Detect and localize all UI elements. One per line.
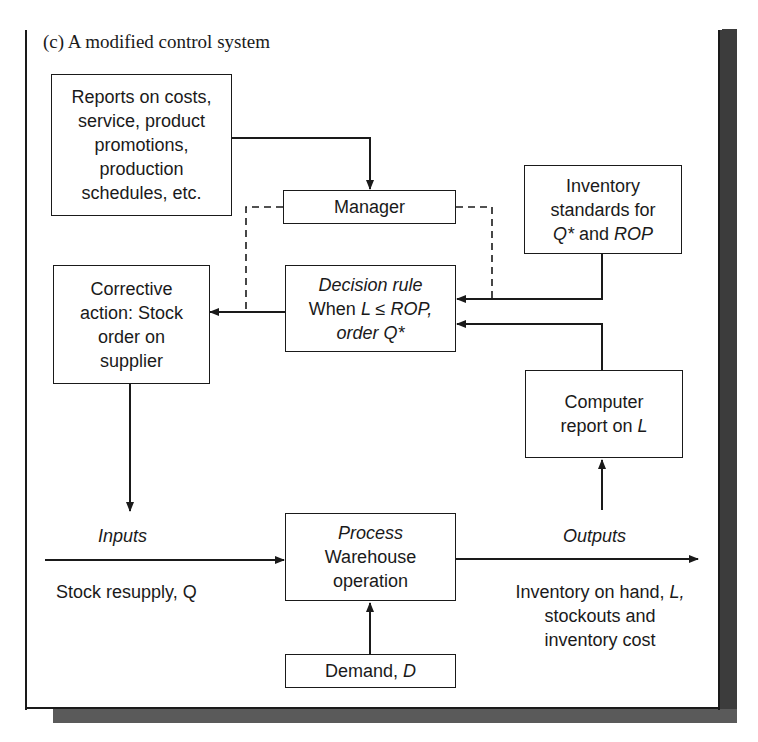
reports-box: Reports on costs, service, product promo… <box>51 74 232 216</box>
process-box: Process Warehouse operation <box>285 513 456 601</box>
manager-left-dashed-line <box>246 207 283 312</box>
computer-report-to-decision-arrow <box>457 324 602 370</box>
decision-rule-order: order Q* <box>336 321 404 345</box>
computer-report-box: Computer report on L <box>525 370 683 458</box>
outputs-l-var: L, <box>670 582 685 602</box>
outputs-label: Outputs <box>563 524 626 548</box>
demand-prefix: Demand, <box>325 661 403 681</box>
manager-label: Manager <box>334 195 405 219</box>
and-text: and <box>574 224 614 244</box>
decision-rule-title: Decision rule <box>318 273 422 297</box>
computer-report-line-2: report on L <box>560 414 647 438</box>
corrective-line-1: Corrective <box>90 277 172 301</box>
report-on-text: report on <box>560 416 637 436</box>
standards-to-decision-arrow <box>457 254 602 299</box>
demand-box: Demand, D <box>285 654 456 688</box>
corrective-action-box: Corrective action: Stock order on suppli… <box>53 265 210 384</box>
inputs-label: Inputs <box>98 524 147 548</box>
computer-report-line-1: Computer <box>564 390 643 414</box>
outputs-description: Inventory on hand, L, stockouts and inve… <box>485 580 715 652</box>
outputs-line-1: Inventory on hand, L, <box>485 580 715 604</box>
inventory-standards-box: Inventory standards for Q* and ROP <box>524 165 682 254</box>
l-var: L <box>638 416 648 436</box>
d-var: D <box>403 661 416 681</box>
process-line-1: Warehouse <box>325 545 416 569</box>
stock-resupply-label: Stock resupply, Q <box>56 580 197 604</box>
reports-line-2: service, product <box>78 109 205 133</box>
inventory-on-hand-text: Inventory on hand, <box>515 582 669 602</box>
condition-text: L ≤ ROP, <box>361 299 432 319</box>
reports-line-5: schedules, etc. <box>81 181 201 205</box>
manager-right-dashed-line <box>456 207 492 298</box>
decision-rule-box: Decision rule When L ≤ ROP, order Q* <box>285 265 456 352</box>
corrective-line-3: order on <box>98 325 165 349</box>
when-text: When <box>309 299 361 319</box>
process-title: Process <box>338 521 403 545</box>
reports-line-3: promotions, <box>94 133 188 157</box>
reports-line-1: Reports on costs, <box>71 85 211 109</box>
inventory-standards-line-1: Inventory <box>566 174 640 198</box>
q-star-var: Q* <box>553 224 574 244</box>
corrective-line-4: supplier <box>100 349 163 373</box>
demand-label: Demand, D <box>325 659 416 683</box>
process-line-2: operation <box>333 569 408 593</box>
rop-var: ROP <box>614 224 653 244</box>
decision-rule-condition-line: When L ≤ ROP, <box>309 297 432 321</box>
inventory-standards-line-2: standards for <box>550 198 655 222</box>
manager-box: Manager <box>283 190 456 224</box>
reports-line-4: production <box>99 157 183 181</box>
outputs-line-2: stockouts and <box>485 604 715 628</box>
corrective-line-2: action: Stock <box>80 301 183 325</box>
inventory-standards-line-3: Q* and ROP <box>553 222 653 246</box>
reports-to-manager-arrow <box>232 138 370 189</box>
outputs-line-3: inventory cost <box>485 628 715 652</box>
